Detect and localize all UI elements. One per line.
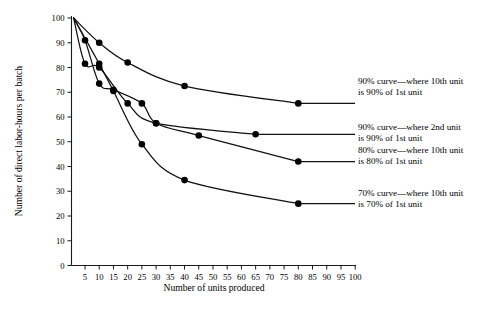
x-tick-label: 45: [194, 272, 203, 282]
annotation-line-2: is 70% of 1st unit: [358, 199, 463, 210]
x-tick-label: 30: [152, 272, 161, 282]
learning-curve-chart: 0102030405060708090100 51015202530354045…: [0, 0, 497, 312]
data-point: [181, 83, 188, 90]
y-tick-label: 50: [56, 137, 65, 147]
data-point: [110, 88, 117, 95]
y-tick-label: 100: [52, 13, 65, 23]
x-tick-label: 35: [166, 272, 175, 282]
annotation-line-1: 90% curve—where 10th unit: [358, 76, 463, 87]
annotation-line-1: 90% curve—where 2nd unit: [358, 122, 461, 133]
annotation-line-2: is 90% of 1st unit: [358, 133, 461, 144]
x-tick-label: 40: [180, 272, 189, 282]
x-tick-label: 80: [294, 272, 303, 282]
y-tick-label: 80: [56, 63, 65, 73]
annotation-line-2: is 80% of 1st unit: [358, 156, 463, 167]
curve-0: [74, 18, 299, 103]
data-point: [139, 100, 146, 107]
x-axis-ticks: 5101520253035404550556065707580859095100: [83, 266, 362, 282]
data-point: [153, 120, 160, 127]
y-tick-label: 70: [56, 87, 65, 97]
curve-1: [74, 18, 256, 134]
curves-layer: [74, 18, 302, 207]
y-tick-label: 60: [56, 112, 65, 122]
annotation-line-2: is 90% of 1st unit: [358, 87, 463, 98]
y-axis-ticks: 0102030405060708090100: [52, 13, 72, 271]
x-tick-label: 75: [280, 272, 289, 282]
x-axis-title: Number of units produced: [164, 282, 265, 293]
data-point: [82, 60, 89, 67]
leader-lines-layer: [258, 103, 355, 203]
x-tick-label: 90: [322, 272, 331, 282]
y-axis-title: Number of direct labor-hours per batch: [13, 66, 24, 217]
y-tick-label: 90: [56, 38, 65, 48]
data-point: [124, 100, 131, 107]
data-point: [96, 39, 103, 46]
y-tick-label: 0: [60, 261, 64, 271]
data-point: [195, 132, 202, 139]
x-tick-label: 55: [223, 272, 232, 282]
x-tick-label: 65: [251, 272, 260, 282]
data-point: [124, 59, 131, 66]
annotation-90-10th: 90% curve—where 10th unit is 90% of 1st …: [358, 76, 463, 98]
x-tick-label: 95: [337, 272, 346, 282]
data-point: [96, 60, 103, 67]
data-point: [96, 80, 103, 87]
annotation-line-1: 80% curve—where 10th unit: [358, 145, 463, 156]
annotation-80-10th: 80% curve—where 10th unit is 80% of 1st …: [358, 145, 463, 167]
x-tick-label: 50: [209, 272, 218, 282]
annotation-90-2nd: 90% curve—where 2nd unit is 90% of 1st u…: [358, 122, 461, 144]
x-tick-label: 70: [266, 272, 275, 282]
x-tick-label: 15: [109, 272, 118, 282]
x-tick-label: 85: [308, 272, 317, 282]
x-tick-label: 60: [237, 272, 246, 282]
data-point: [181, 177, 188, 184]
x-tick-label: 20: [123, 272, 132, 282]
annotation-line-1: 70% curve—where 10th unit: [358, 188, 463, 199]
data-point: [139, 141, 146, 148]
x-tick-label: 25: [138, 272, 147, 282]
x-tick-label: 5: [83, 272, 87, 282]
curve-3: [74, 18, 299, 204]
axes-group: [72, 16, 357, 266]
x-tick-label: 100: [349, 272, 362, 282]
y-tick-label: 20: [56, 211, 65, 221]
y-tick-label: 30: [56, 186, 65, 196]
x-tick-label: 10: [95, 272, 104, 282]
curve-2: [74, 18, 299, 162]
data-point: [82, 37, 89, 44]
annotation-70-10th: 70% curve—where 10th unit is 70% of 1st …: [358, 188, 463, 210]
y-tick-label: 10: [56, 236, 65, 246]
y-tick-label: 40: [56, 162, 65, 172]
